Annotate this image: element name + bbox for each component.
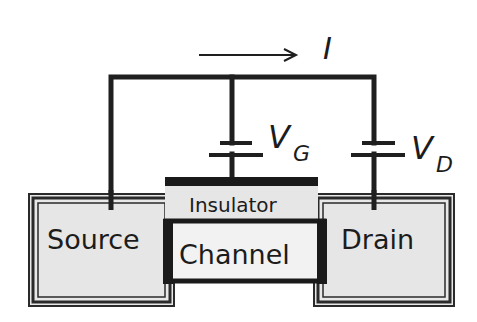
drain-voltage-subscript: D <box>436 152 453 177</box>
drain-label: Drain <box>341 224 414 255</box>
channel-label: Channel <box>179 239 290 270</box>
fet-circuit-diagram: I V G V D Source <box>0 0 477 322</box>
insulator-label: Insulator <box>189 193 278 217</box>
gate-battery-icon <box>209 143 263 155</box>
current-arrow-icon <box>199 49 296 61</box>
gate-voltage-subscript: G <box>293 141 310 166</box>
gate-electrode <box>165 177 318 186</box>
drain-battery-icon <box>351 143 405 155</box>
current-label: I <box>323 31 332 66</box>
gate-voltage-symbol: V <box>268 118 292 156</box>
drain-voltage-symbol: V <box>411 129 435 167</box>
source-label: Source <box>47 224 140 255</box>
